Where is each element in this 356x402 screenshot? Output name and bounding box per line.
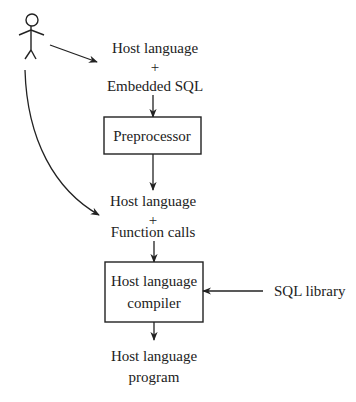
- node-source: Host language + Embedded SQL: [107, 40, 203, 94]
- compiler-line1: Host language: [111, 273, 198, 289]
- node-output: Host language program: [111, 348, 198, 385]
- preprocessor-label: Preprocessor: [113, 128, 190, 144]
- source-line1: Host language: [112, 40, 199, 56]
- arrow-actor-to-intermediate: [25, 70, 99, 215]
- node-compiler: Host language compiler: [105, 262, 203, 322]
- embedded-sql-diagram: Host language + Embedded SQL Preprocesso…: [0, 0, 356, 402]
- compiler-line2: compiler: [127, 295, 180, 311]
- intermediate-line1: Host language: [110, 193, 197, 209]
- output-line2: program: [129, 369, 180, 385]
- arrow-actor-to-source: [50, 45, 97, 62]
- intermediate-line3: Function calls: [111, 224, 196, 240]
- stick-figure-icon: [19, 14, 44, 59]
- output-line1: Host language: [111, 348, 198, 364]
- source-line3: Embedded SQL: [107, 78, 203, 94]
- library-label: SQL library: [274, 283, 346, 299]
- source-plus: +: [151, 59, 159, 75]
- node-intermediate: Host language + Function calls: [110, 193, 197, 240]
- node-preprocessor: Preprocessor: [104, 117, 201, 154]
